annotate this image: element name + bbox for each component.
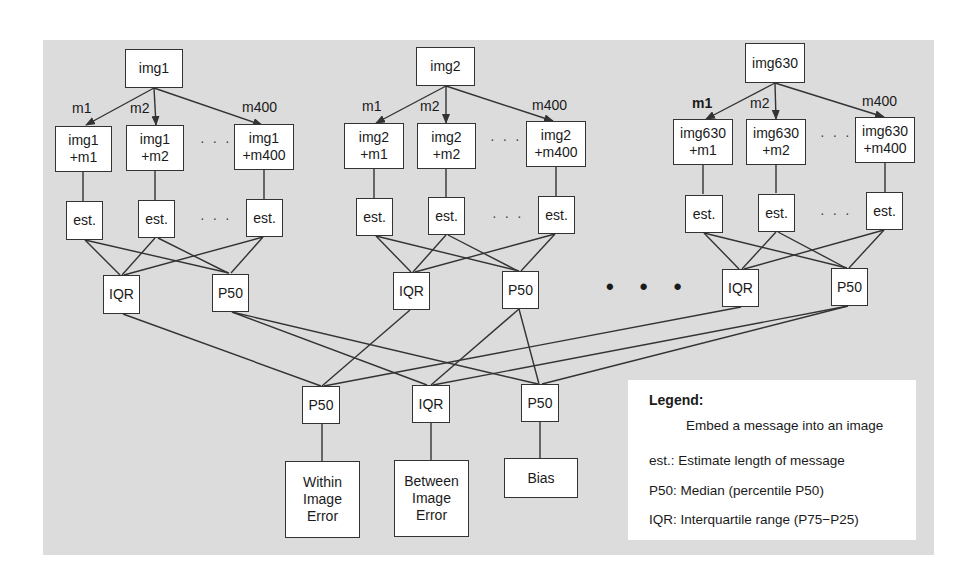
aggregate-iqr-node: IQR <box>412 385 450 423</box>
node-label: img1 <box>68 132 98 149</box>
embedded-node: img2+m1 <box>344 123 404 169</box>
node-label: img630 <box>753 125 799 142</box>
edge-label: m2 <box>420 98 439 114</box>
node-label: P50 <box>508 282 533 299</box>
embedded-node: img1+m400 <box>234 124 294 170</box>
node-label: est. <box>765 205 788 222</box>
output-bias: Bias <box>504 458 578 498</box>
node-label: est. <box>545 207 568 224</box>
node-label: +m2 <box>433 146 461 163</box>
p50-node: P50 <box>212 274 249 312</box>
image-node-img1: img1 <box>125 49 183 88</box>
node-label: Bias <box>527 470 554 487</box>
node-label: P50 <box>218 285 243 302</box>
node-label: IQR <box>399 283 424 300</box>
legend-symbol: est.: <box>649 453 675 468</box>
node-label: Within <box>303 474 342 491</box>
embedded-node: img1+m1 <box>55 126 112 172</box>
est-node: est. <box>758 194 795 232</box>
node-label: Image <box>303 491 342 508</box>
node-label: P50 <box>528 395 553 412</box>
node-label: est. <box>253 210 276 227</box>
node-label: +m1 <box>70 149 98 166</box>
node-label: +m400 <box>242 147 285 164</box>
node-label: Error <box>307 508 338 525</box>
legend: Legend: Embed a message into an image es… <box>628 380 916 540</box>
edge-label: m1 <box>72 100 91 116</box>
node-label: img630 <box>680 125 726 142</box>
node-label: est. <box>145 211 168 228</box>
edge-label: m400 <box>862 93 897 109</box>
legend-item-est: est.: Estimate length of message <box>649 453 845 468</box>
node-label: img2 <box>541 127 571 144</box>
ellipsis-large: • • • <box>606 274 691 300</box>
node-label: img1 <box>140 131 170 148</box>
node-label: est. <box>363 209 386 226</box>
iqr-node: IQR <box>103 275 140 314</box>
edge-label: m2 <box>130 100 149 116</box>
legend-arrow-icon <box>640 418 678 432</box>
embedded-node: img2+m400 <box>526 121 586 167</box>
node-label: img1 <box>139 60 169 77</box>
est-node: est. <box>246 199 283 237</box>
ellipsis: · · · <box>200 210 232 226</box>
node-label: +m1 <box>360 146 388 163</box>
est-node: est. <box>685 195 723 233</box>
legend-text: Estimate length of message <box>678 453 845 468</box>
iqr-node: IQR <box>393 272 430 310</box>
ellipsis: · · · <box>820 205 852 221</box>
node-label: Image <box>412 490 451 507</box>
output-between-image-error: Between Image Error <box>394 460 469 537</box>
node-label: img630 <box>862 123 908 140</box>
edge-label: m400 <box>532 97 567 113</box>
legend-item-iqr: IQR: Interquartile range (P75−P25) <box>649 512 859 527</box>
embedded-node: img1+m2 <box>126 125 184 171</box>
ellipsis: · · · <box>200 133 232 149</box>
est-node: est. <box>428 197 465 235</box>
embedded-node: img2+m2 <box>417 123 476 169</box>
ellipsis: · · · <box>820 127 852 143</box>
node-label: P50 <box>837 279 862 296</box>
image-node-img2: img2 <box>416 47 475 86</box>
legend-symbol: P50: <box>649 483 677 498</box>
embedded-node: img630+m400 <box>855 117 915 163</box>
node-label: Error <box>416 507 447 524</box>
p50-node: P50 <box>502 271 539 309</box>
node-label: img2 <box>431 129 461 146</box>
legend-title: Legend: <box>649 392 703 408</box>
node-label: est. <box>693 206 716 223</box>
node-label: +m1 <box>689 142 717 159</box>
node-label: +m400 <box>534 144 577 161</box>
est-node: est. <box>356 198 393 236</box>
est-node: est. <box>866 192 903 230</box>
edge-label: m1 <box>692 95 712 111</box>
est-node: est. <box>66 201 103 240</box>
node-label: img1 <box>249 130 279 147</box>
node-label: est. <box>435 208 458 225</box>
node-label: IQR <box>728 280 753 297</box>
image-node-img630: img630 <box>745 43 805 83</box>
node-label: img2 <box>430 58 460 75</box>
p50-node: P50 <box>831 268 868 306</box>
legend-text: Interquartile range (P75−P25) <box>681 512 859 527</box>
aggregate-p50-node: P50 <box>302 386 340 424</box>
node-label: +m2 <box>141 148 169 165</box>
embedded-node: img630+m2 <box>746 119 806 165</box>
node-label: IQR <box>419 396 444 413</box>
node-label: img630 <box>752 55 798 72</box>
edge-label: m400 <box>242 99 277 115</box>
est-node: est. <box>538 196 575 234</box>
edge-label: m2 <box>750 95 769 111</box>
aggregate-p50-node: P50 <box>521 384 559 422</box>
node-label: img2 <box>359 129 389 146</box>
legend-text: Median (percentile P50) <box>681 483 824 498</box>
est-node: est. <box>138 200 175 238</box>
ellipsis: · · · <box>492 208 524 224</box>
legend-item-p50: P50: Median (percentile P50) <box>649 483 824 498</box>
edge-label: m1 <box>362 98 381 114</box>
legend-symbol: IQR: <box>649 512 677 527</box>
node-label: +m2 <box>762 142 790 159</box>
node-label: est. <box>873 203 896 220</box>
node-label: +m400 <box>863 140 906 157</box>
node-label: Between <box>404 473 458 490</box>
